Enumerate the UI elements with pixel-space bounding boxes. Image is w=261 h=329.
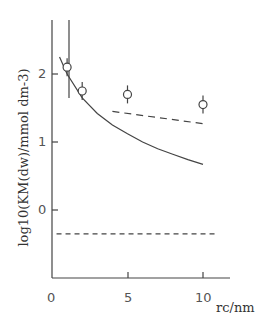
plot-area (0, 0, 261, 329)
y-tick-1: 1 (38, 134, 46, 149)
y-axis-label: log10(KM(dw)/mmol dm-3) (16, 63, 31, 253)
x-tick-10: 10 (195, 290, 212, 305)
x-tick-5: 5 (124, 290, 132, 305)
chart: log10(KM(dw)/mmol dm-3) rc/nm 0 5 10 0 1… (0, 0, 261, 329)
x-axis-label: rc/nm (216, 300, 255, 315)
data-points (63, 58, 207, 113)
y-tick-2: 2 (38, 66, 46, 81)
model-curve (60, 57, 203, 164)
x-tick-0: 0 (47, 290, 55, 305)
y-tick-0: 0 (38, 202, 46, 217)
upper-dashed-line (112, 111, 203, 123)
